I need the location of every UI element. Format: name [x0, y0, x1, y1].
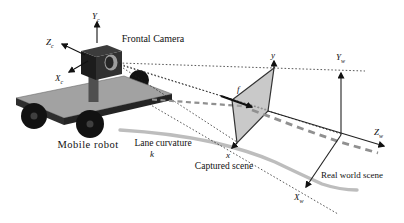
image-plane-x-label: x: [225, 150, 230, 160]
frontal-camera-group: [81, 45, 122, 80]
frontal-camera-label: Frontal Camera: [122, 33, 185, 44]
figure-canvas: Yc Zc Xc f y x Yw Zw Xw Frontal Camera M…: [0, 0, 404, 223]
front-left-wheel-hub: [31, 113, 38, 120]
real-world-scene-label: Real world scene: [321, 170, 383, 180]
camera-lens-pupil: [106, 57, 114, 69]
front-right-wheel-hub: [87, 121, 94, 128]
mobile-robot-label: Mobile robot: [57, 139, 118, 150]
captured-scene-label: Captured scene: [195, 161, 253, 171]
lane-curvature-label: Lane curvature: [134, 138, 191, 148]
image-plane-y-label: y: [270, 50, 275, 60]
robot-camera-geometry-diagram: Yc Zc Xc f y x Yw Zw Xw Frontal Camera M…: [0, 0, 404, 223]
